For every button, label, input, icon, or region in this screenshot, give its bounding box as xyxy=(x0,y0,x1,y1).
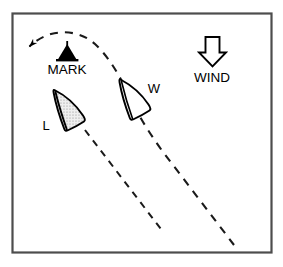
diagram-frame xyxy=(13,14,272,253)
windward-boat-label: W xyxy=(148,81,161,96)
diagram-canvas: MARK WIND W L xyxy=(0,0,283,267)
sailing-diagram: MARK WIND W L xyxy=(0,0,283,267)
wind-label: WIND xyxy=(194,70,230,85)
mark-label: MARK xyxy=(47,62,86,77)
leeward-boat-label: L xyxy=(42,118,49,133)
